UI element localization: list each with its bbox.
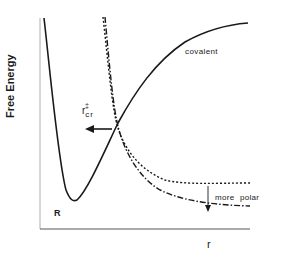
critical-r-subscript: cr (85, 110, 94, 119)
polarity-arrowhead-icon (205, 205, 211, 212)
ionic-curve-more-polar (105, 17, 250, 206)
diagram-canvas (0, 0, 283, 258)
rcr-shift-arrowhead-icon (85, 125, 94, 133)
x-axis-label: r (207, 238, 211, 250)
more-polar-label: more polar (215, 193, 259, 202)
y-axis-label: Free Energy (4, 54, 16, 118)
critical-r-label: rcr‡ (82, 105, 98, 116)
covalent-label: covalent (185, 47, 218, 56)
reactant-label: R (54, 208, 61, 218)
covalent-curve (44, 18, 248, 201)
ionic-curve-less-polar (103, 17, 250, 183)
critical-r-superscript: ‡ (85, 102, 89, 109)
